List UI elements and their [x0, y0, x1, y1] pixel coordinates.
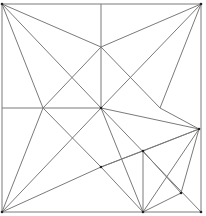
vertex-S	[142, 211, 145, 214]
vertex-C	[100, 107, 103, 110]
segment-C-R	[101, 108, 199, 129]
vertex-BL	[1, 211, 4, 214]
segment-TR-C	[101, 4, 201, 108]
diagram-svg	[0, 0, 206, 216]
segment-TR-P3	[160, 4, 201, 108]
geometric-diagram	[0, 0, 206, 216]
segment-U-S	[143, 193, 181, 212]
segment-BL-C	[2, 108, 101, 212]
vertex-TR	[200, 3, 203, 6]
vertex-Q	[142, 150, 145, 153]
vertex-BR	[200, 211, 203, 214]
segment-Q-U	[143, 151, 181, 193]
vertex-R	[198, 128, 201, 131]
segment-C-S	[101, 108, 143, 212]
segment-R-S	[143, 129, 199, 212]
vertex-P4	[100, 166, 103, 169]
segment-P3-R	[160, 108, 199, 129]
segment-TR-P1	[101, 4, 201, 47]
segment-P4-S	[101, 167, 143, 212]
vertex-U	[180, 192, 183, 195]
vertex-TL	[1, 3, 4, 6]
segment-TL-C	[2, 4, 101, 108]
segment-R-U	[181, 129, 199, 193]
segment-R-Q	[143, 129, 199, 151]
